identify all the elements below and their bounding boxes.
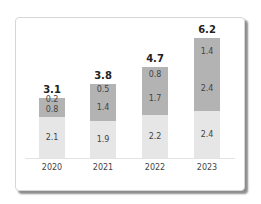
bar-2023: 2.42.41.4 bbox=[194, 38, 220, 158]
segment-top: 0.5 bbox=[90, 84, 116, 94]
segment-top: 0.2 bbox=[39, 98, 65, 102]
stacked-bar-chart: 2.10.80.23.120201.91.40.53.820212.21.70.… bbox=[0, 0, 261, 204]
x-tick-label: 2022 bbox=[135, 163, 175, 172]
x-tick-label: 2021 bbox=[83, 163, 123, 172]
total-label: 4.7 bbox=[135, 53, 175, 64]
total-label: 6.2 bbox=[187, 24, 227, 35]
segment-top: 0.8 bbox=[142, 67, 168, 83]
x-tick-label: 2020 bbox=[32, 163, 72, 172]
x-axis-baseline bbox=[25, 158, 235, 159]
segment-top: 1.4 bbox=[194, 38, 220, 65]
segment-middle: 1.4 bbox=[90, 94, 116, 121]
segment-bottom: 2.2 bbox=[142, 115, 168, 158]
bar-2022: 2.21.70.8 bbox=[142, 67, 168, 158]
total-label: 3.8 bbox=[83, 70, 123, 81]
total-label: 3.1 bbox=[32, 84, 72, 95]
segment-bottom: 2.4 bbox=[194, 111, 220, 158]
bar-2020: 2.10.80.2 bbox=[39, 98, 65, 158]
segment-bottom: 2.1 bbox=[39, 117, 65, 158]
bar-2021: 1.91.40.5 bbox=[90, 84, 116, 158]
segment-middle: 2.4 bbox=[194, 65, 220, 112]
segment-bottom: 1.9 bbox=[90, 121, 116, 158]
x-tick-label: 2023 bbox=[187, 163, 227, 172]
segment-middle: 1.7 bbox=[142, 82, 168, 115]
